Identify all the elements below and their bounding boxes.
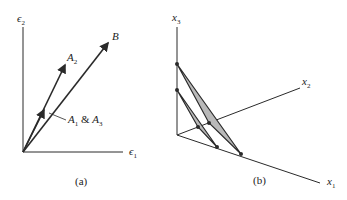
vector-A1-A3 [23, 110, 44, 152]
panel-a [23, 27, 123, 152]
vector-A2-label: A2 [67, 52, 77, 66]
x1-axis [177, 135, 320, 183]
epsilon1-axis-label: ϵ1 [129, 146, 137, 160]
vector-B [23, 43, 108, 152]
x2-axis-label: x2 [302, 76, 310, 90]
epsilon2-axis-label: ϵ2 [17, 13, 25, 27]
caption-a: (a) [75, 175, 87, 187]
vector-B-label: B [112, 31, 119, 42]
x1-axis-label: x1 [327, 176, 335, 190]
diagram-canvas [0, 0, 347, 200]
caption-b: (b) [253, 174, 266, 186]
vector-A1-A3-label: A1 & A3 [68, 114, 103, 128]
large-plane [177, 64, 241, 154]
panel-b [175, 27, 320, 183]
x3-axis-label: x3 [172, 12, 180, 26]
